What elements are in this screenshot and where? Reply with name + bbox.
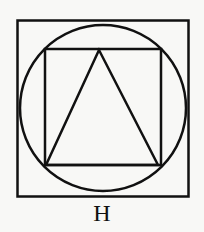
geometric-figure: [0, 0, 204, 232]
inner-square: [45, 49, 161, 165]
outer-square: [18, 21, 189, 197]
figure-label: H: [0, 200, 204, 227]
triangle: [46, 50, 158, 165]
